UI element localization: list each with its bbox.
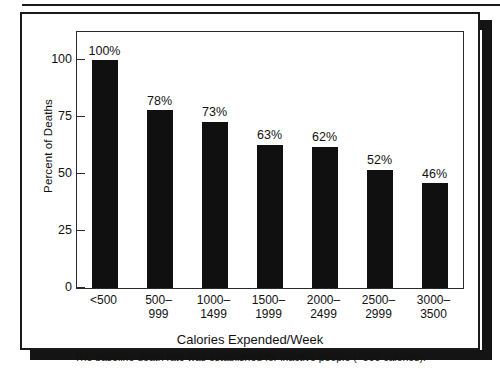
bar[interactable]	[92, 60, 118, 288]
y-axis-tick-label: 100	[38, 52, 72, 66]
plot-area: 0255075100 100%78%73%63%62%52%46%	[76, 31, 464, 289]
figure-caption: The baseline death rate was established …	[22, 351, 478, 363]
bar-value-label: 63%	[257, 129, 282, 142]
x-label-line-2: 2499	[296, 307, 351, 321]
x-label-line-1: 1000–	[197, 293, 230, 307]
bar-column[interactable]: 62%	[312, 32, 338, 288]
bar[interactable]	[257, 145, 283, 288]
bar-value-label: 100%	[89, 45, 121, 58]
x-axis-category-label: 1500–1999	[241, 293, 296, 321]
bar-column[interactable]: 78%	[147, 32, 173, 288]
x-axis-tick-labels: <500500–9991000–14991500–19992000–249925…	[76, 293, 464, 333]
page-top-rule	[22, 4, 500, 6]
bar-value-label: 73%	[202, 106, 227, 119]
y-axis-title: Percent of Deaths	[42, 76, 54, 216]
bar-column[interactable]: 52%	[367, 32, 393, 288]
x-axis-category-label: 500–999	[131, 293, 186, 321]
bar[interactable]	[367, 170, 393, 288]
x-label-line-1: 500–	[145, 293, 172, 307]
bar-value-label: 78%	[147, 95, 172, 108]
x-axis-category-label: <500	[76, 293, 131, 307]
bars-layer: 100%78%73%63%62%52%46%	[77, 32, 463, 288]
bar-column[interactable]: 63%	[257, 32, 283, 288]
x-label-line-2: 1499	[186, 307, 241, 321]
x-label-line-1: 2000–	[307, 293, 340, 307]
bar[interactable]	[147, 110, 173, 288]
bar[interactable]	[422, 183, 448, 288]
x-axis-category-label: 1000–1499	[186, 293, 241, 321]
bar-column[interactable]: 100%	[92, 32, 118, 288]
x-label-line-2: 3500	[406, 307, 461, 321]
x-axis-title: Calories Expended/Week	[22, 332, 478, 347]
bar-value-label: 62%	[312, 131, 337, 144]
x-label-line-2: 2999	[351, 307, 406, 321]
y-axis-tick-label: 50	[38, 166, 72, 180]
x-axis-category-label: 2500–2999	[351, 293, 406, 321]
x-label-line-1: 1500–	[252, 293, 285, 307]
bar[interactable]	[312, 147, 338, 288]
figure-card: Percent of Deaths 0255075100 100%78%73%6…	[20, 12, 480, 350]
x-label-line-2: 999	[131, 307, 186, 321]
x-label-line-1: 3000–	[417, 293, 450, 307]
bar-chart: Percent of Deaths 0255075100 100%78%73%6…	[22, 14, 478, 348]
bar-column[interactable]: 73%	[202, 32, 228, 288]
bar-value-label: 46%	[422, 168, 447, 181]
bar[interactable]	[202, 122, 228, 288]
x-label-line-1: <500	[90, 293, 117, 307]
y-axis-tick-label: 0	[38, 280, 72, 294]
y-axis-tick-label: 75	[38, 109, 72, 123]
x-label-line-1: 2500–	[362, 293, 395, 307]
figure-page: Percent of Deaths 0255075100 100%78%73%6…	[0, 0, 500, 369]
x-label-line-2: 1999	[241, 307, 296, 321]
bar-value-label: 52%	[367, 154, 392, 167]
x-axis-category-label: 3000–3500	[406, 293, 461, 321]
y-axis-tick-label: 25	[38, 223, 72, 237]
x-axis-category-label: 2000–2499	[296, 293, 351, 321]
bar-column[interactable]: 46%	[422, 32, 448, 288]
